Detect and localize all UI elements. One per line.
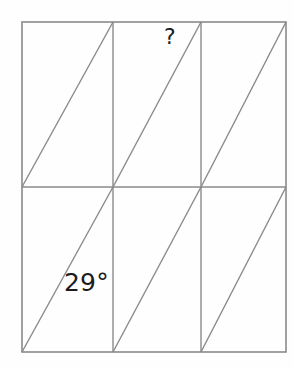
known-angle-label: 29°	[64, 270, 109, 295]
geometry-figure: ? 29°	[0, 0, 294, 369]
diagonal-top-left-cell	[22, 22, 113, 187]
diagram-canvas	[0, 0, 294, 369]
diagonal-top-right-cell	[201, 22, 286, 187]
diagonal-bottom-right-cell	[201, 187, 286, 352]
diagonal-top-middle-cell	[113, 22, 201, 187]
diagonal-bottom-middle-cell	[113, 187, 201, 352]
unknown-angle-label: ?	[164, 26, 176, 48]
